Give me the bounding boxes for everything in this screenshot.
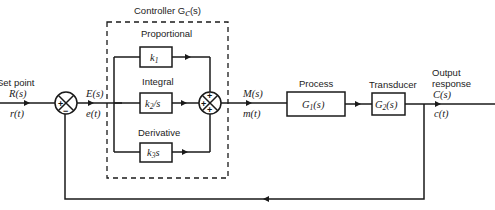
plus-sign: + — [207, 105, 212, 115]
integral-label: Integral — [142, 76, 174, 87]
derivative-branch: Derivative k3s — [138, 114, 210, 162]
arrow-icon — [263, 196, 269, 202]
summing-junction-comparator: + − — [55, 92, 77, 116]
transducer-label: Transducer — [369, 79, 417, 90]
manipulated-laplace-label: M(s) — [242, 88, 263, 100]
arrow-icon — [185, 54, 191, 60]
input-time-label: r(t) — [10, 108, 25, 120]
output-label-line2: response — [432, 78, 471, 89]
error-laplace-label: E(s) — [85, 88, 104, 100]
error-time-label: e(t) — [86, 108, 101, 120]
arrow-icon — [355, 101, 361, 107]
output-laplace-label: C(s) — [433, 89, 452, 101]
error-signal: E(s) e(t) — [77, 88, 122, 120]
arrow-icon — [181, 100, 187, 106]
manipulated-time-label: m(t) — [243, 108, 261, 120]
process-block: Process G1(s) — [287, 78, 345, 116]
arrow-icon — [246, 100, 252, 106]
derivative-label: Derivative — [138, 127, 180, 138]
integral-branch: Integral k2/s — [140, 76, 199, 113]
output-label-line1: Output — [432, 67, 461, 78]
output-time-label: c(t) — [434, 108, 449, 120]
input-signal: Set point R(s) r(t) — [0, 77, 55, 120]
plus-sign: + — [201, 99, 206, 109]
plus-sign: + — [207, 91, 212, 101]
process-label: Process — [299, 78, 334, 89]
arrow-icon — [435, 101, 441, 107]
controller-title: Controller Gc(s) — [134, 5, 201, 18]
output-signal: Output response C(s) c(t) — [405, 67, 495, 120]
arrow-icon — [182, 149, 188, 155]
arrow-icon — [88, 100, 94, 106]
input-laplace-label: R(s) — [8, 88, 27, 100]
arrow-icon — [24, 100, 30, 106]
summing-junction-controller: + + + — [199, 91, 221, 115]
control-block-diagram: Set point R(s) r(t) + − E(s) e(t) Contro… — [0, 0, 495, 210]
manipulated-signal: M(s) m(t) — [221, 88, 287, 120]
setpoint-label: Set point — [0, 77, 35, 88]
transducer-block: Transducer G2(s) — [369, 79, 417, 115]
proportional-label: Proportional — [141, 28, 192, 39]
